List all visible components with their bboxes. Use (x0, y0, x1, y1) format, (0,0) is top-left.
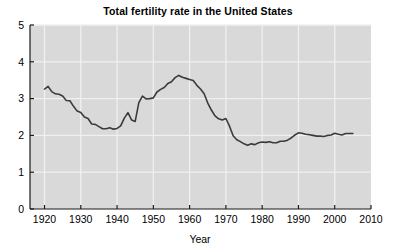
x-axis-tick-label: 2000 (323, 213, 347, 225)
y-axis-tick-label: 0 (18, 203, 24, 215)
y-axis-tick-label: 5 (18, 19, 24, 31)
x-axis-tick-label: 2010 (359, 213, 383, 225)
y-axis-tick-label: 1 (18, 166, 24, 178)
x-axis-tick-label: 1930 (69, 213, 93, 225)
x-axis-title: Year (189, 233, 211, 245)
fertility-rate-line-chart: 012345 192019301940195019601970198019902… (0, 0, 396, 252)
y-axis-tick-label: 2 (18, 129, 24, 141)
x-axis-tick-label: 1990 (287, 213, 311, 225)
x-axis-tick-label: 1950 (142, 213, 166, 225)
x-axis-tick-label: 1920 (33, 213, 57, 225)
x-axis-tick-label: 1970 (214, 213, 238, 225)
y-axis-tick-label: 3 (18, 92, 24, 104)
x-axis-tick-label: 1940 (105, 213, 129, 225)
y-axis-tick-label: 4 (18, 56, 24, 68)
chart-figure: Total fertility rate in the United State… (0, 0, 396, 252)
x-axis-tick-label: 1980 (250, 213, 274, 225)
x-axis-tick-label: 1960 (178, 213, 202, 225)
